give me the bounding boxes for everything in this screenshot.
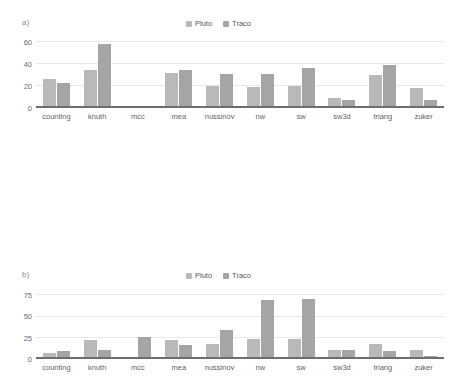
bar-pluto-sw: [288, 86, 301, 108]
bar-group: [322, 36, 363, 108]
bars-a: [36, 36, 444, 108]
x-axis-tick-label: sw3d: [322, 112, 363, 121]
x-axis-tick-label: zuker: [403, 112, 444, 121]
x-axis-tick-label: nw: [240, 112, 281, 121]
bar-traco-triang: [383, 65, 396, 108]
x-axis-tick-label: sw: [281, 112, 322, 121]
bar-group: [118, 36, 159, 108]
y-axis-tick-label: 0: [28, 104, 32, 113]
bar-group: [158, 36, 199, 108]
bar-group: [403, 36, 444, 108]
x-axis-tick-label: triang: [362, 112, 403, 121]
bar-traco-mea: [179, 70, 192, 108]
bar-group: [281, 36, 322, 108]
legend-entry-pluto: Pluto: [186, 19, 212, 28]
legend-label-traco: Traco: [232, 19, 251, 28]
bar-group: [77, 36, 118, 108]
x-axis-tick-label: knuth: [77, 112, 118, 121]
x-axis-tick-label: counting: [36, 112, 77, 121]
bar-pluto-counting: [43, 79, 56, 108]
bar-pluto-knuth: [84, 70, 97, 108]
bar-traco-counting: [57, 83, 70, 108]
bar-pluto-triang: [369, 75, 382, 108]
chart-panel-a: a) Pluto Traco 0204060 countingknuthmccm…: [0, 0, 454, 130]
x-axis-tick-label: nussinov: [199, 112, 240, 121]
legend-entry-traco: Traco: [223, 19, 251, 28]
bar-traco-nw: [261, 74, 274, 108]
bar-traco-nussinov: [220, 74, 233, 108]
figure-container: a) Pluto Traco 0204060 countingknuthmccm…: [0, 0, 454, 381]
panel-label-a: a): [22, 18, 30, 27]
y-axis-tick-label: 60: [24, 37, 32, 46]
bar-pluto-zuker: [410, 88, 423, 108]
legend-a: Pluto Traco: [186, 19, 251, 28]
legend-label-pluto: Pluto: [195, 19, 212, 28]
bar-group: [199, 36, 240, 108]
y-axis-tick-label: 20: [24, 81, 32, 90]
plot-area-a: 0204060: [36, 36, 444, 108]
bar-group: [240, 36, 281, 108]
bar-group: [36, 36, 77, 108]
bar-group: [362, 36, 403, 108]
axis-baseline-a: [36, 106, 444, 108]
x-axis-tick-label: mcc: [118, 112, 159, 121]
bar-pluto-nw: [247, 87, 260, 108]
x-axis-tick-label: mea: [158, 112, 199, 121]
chart-panel-c: c) Pluto Traco 05101520 countingknuthmcc…: [0, 252, 454, 381]
legend-swatch-pluto: [186, 21, 192, 27]
bar-pluto-nussinov: [206, 86, 219, 108]
bar-traco-knuth: [98, 44, 111, 108]
x-axis-labels-a: countingknuthmccmeanussinovnwswsw3dtrian…: [36, 112, 444, 121]
bar-traco-sw: [302, 68, 315, 108]
y-axis-tick-label: 40: [24, 59, 32, 68]
bar-pluto-mea: [165, 73, 178, 108]
chart-panel-b: b) Pluto Traco 0255075 countingknuthmccm…: [0, 130, 454, 252]
legend-swatch-traco: [223, 21, 229, 27]
